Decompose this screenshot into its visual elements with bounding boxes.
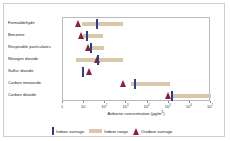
indoor-average-swatch (52, 127, 54, 135)
data-row (63, 42, 209, 54)
outdoor-average-marker (165, 92, 171, 99)
legend-label: Indoor average (56, 129, 84, 134)
x-tick-label: 1 (61, 104, 63, 109)
indoor-range-bar (91, 46, 105, 50)
data-row (63, 18, 209, 30)
category-label-formaldehyde: Formaldehyde (8, 21, 62, 26)
indoor-average-marker (82, 67, 84, 76)
outdoor-average-marker (78, 32, 84, 39)
indoor-average-marker (86, 31, 88, 40)
indoor-average-marker (134, 79, 136, 88)
legend-label: Indoor range (104, 129, 128, 134)
legend-item: Outdoor average (133, 128, 172, 135)
data-row (63, 66, 209, 78)
legend-item: Indoor range (89, 129, 128, 134)
legend-label: Outdoor average (141, 129, 172, 134)
x-tick-label: 107 (207, 104, 213, 109)
outdoor-average-marker (120, 80, 126, 87)
category-label-carbon-monoxide: Carbon monoxide (8, 81, 62, 86)
indoor-average-marker (90, 43, 92, 52)
x-axis-title: Airborne concentration (µg/m3) (62, 110, 210, 116)
category-label-sulfur-dioxide: Sulfur dioxide (8, 69, 62, 74)
category-label-nitrogen-dioxide: Nitrogen dioxide (8, 57, 62, 62)
x-tick-label: 103 (122, 104, 128, 109)
category-axis-labels: FormaldehydeBenzeneRespirable particulat… (8, 17, 62, 101)
indoor-average-marker (96, 19, 98, 28)
outdoor-average-swatch (133, 128, 139, 135)
indoor-range-bar (82, 22, 123, 26)
x-tick-label: 106 (186, 104, 192, 109)
data-row (63, 54, 209, 66)
category-label-respirable-particulates: Respirable particulates (8, 45, 62, 50)
outdoor-average-marker (86, 68, 92, 75)
plot-area (62, 17, 210, 101)
data-row (63, 30, 209, 42)
indoor-range-bar (171, 94, 211, 98)
x-tick-label: 102 (101, 104, 107, 109)
indoor-range-bar (131, 82, 171, 86)
x-tick-label: 10 (81, 104, 85, 109)
category-label-carbon-dioxide: Carbon dioxide (8, 93, 62, 98)
x-tick-label: 104 (144, 104, 150, 109)
outdoor-average-marker (75, 20, 81, 27)
figure-frame: FormaldehydeBenzeneRespirable particulat… (3, 3, 225, 137)
indoor-average-marker (97, 55, 99, 64)
indoor-average-marker (171, 91, 173, 100)
data-row (63, 78, 209, 90)
x-tick-label: 105 (165, 104, 171, 109)
legend-item: Indoor average (52, 127, 84, 135)
category-label-benzene: Benzene (8, 33, 62, 38)
indoor-range-swatch (89, 129, 102, 133)
chart-legend: Indoor averageIndoor rangeOutdoor averag… (52, 126, 222, 136)
